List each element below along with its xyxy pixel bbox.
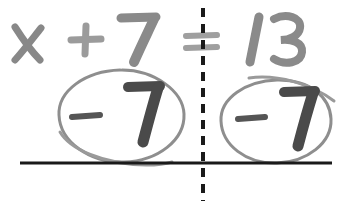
one-stroke: [250, 17, 259, 62]
equation-left-constant-7: [121, 17, 156, 62]
left-minus-sign: [72, 115, 100, 117]
left-circled-operation: [59, 70, 184, 165]
right-circled-operation: [221, 77, 334, 163]
plus-vertical-stroke: [85, 26, 86, 54]
equation-right-constant-13: [250, 16, 302, 63]
left-circle-overshoot-stroke: [60, 132, 172, 165]
seven-diagonal-stroke: [134, 19, 154, 62]
equals-upper-stroke: [186, 35, 217, 36]
equation-plus-operator: [71, 26, 101, 54]
worksheet-canvas: x + 7 = 13 -7 -7: [0, 0, 347, 207]
left-seven-diagonal-stroke: [143, 88, 158, 142]
equation-variable-x: [15, 27, 41, 60]
right-seven-diagonal-stroke: [298, 93, 313, 146]
handwriting-layer: [0, 0, 347, 207]
three-stroke: [274, 16, 302, 63]
right-minus-sign: [238, 117, 265, 119]
